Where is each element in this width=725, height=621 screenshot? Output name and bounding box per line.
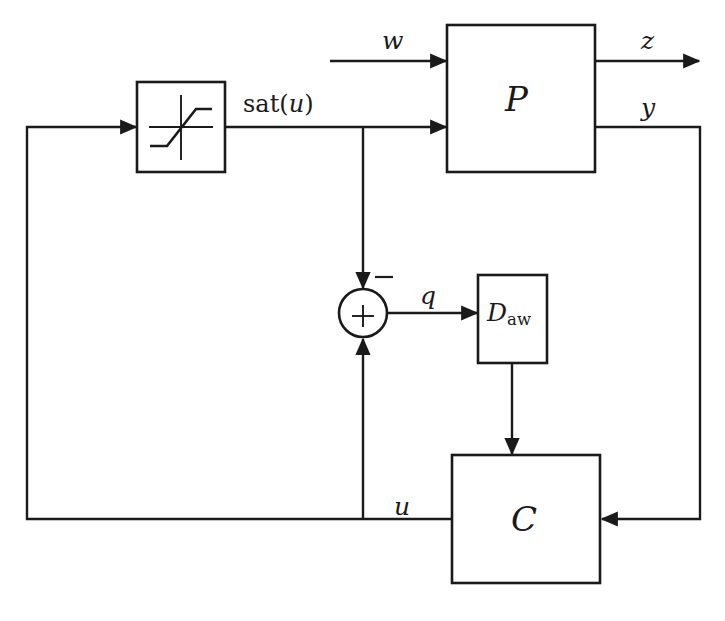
- controller-block-label: C: [511, 502, 537, 536]
- wire-layer: [0, 0, 725, 621]
- daw-label-subscript: aw: [507, 310, 531, 329]
- sat-function-name: sat: [243, 90, 279, 118]
- signal-label-u: u: [394, 494, 410, 519]
- wire-controller-u-to-saturation: [27, 127, 452, 519]
- plant-block-label: P: [505, 82, 528, 116]
- signal-label-y: y: [641, 95, 655, 120]
- signal-label-w: w: [382, 28, 403, 53]
- signal-label-q: q: [420, 283, 436, 308]
- daw-label-base: D: [487, 298, 507, 327]
- wire-plant-y-feedback-to-controller: [595, 127, 700, 519]
- signal-label-sat-u: sat(u): [243, 92, 314, 116]
- sat-open-paren: (: [279, 90, 288, 118]
- sat-argument-u: u: [289, 90, 304, 118]
- daw-block-label: Daw: [487, 300, 531, 328]
- signal-label-z: z: [641, 28, 654, 53]
- sat-close-paren: ): [304, 90, 313, 118]
- block-diagram: w z y sat(u) u q P Daw C: [0, 0, 725, 621]
